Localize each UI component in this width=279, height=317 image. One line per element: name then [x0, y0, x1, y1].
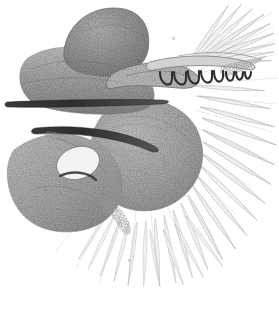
illustration-plate: n s	[0, 0, 279, 317]
annotation-mark-upper: n	[172, 35, 175, 41]
anatomical-illustration: n s	[0, 0, 279, 317]
